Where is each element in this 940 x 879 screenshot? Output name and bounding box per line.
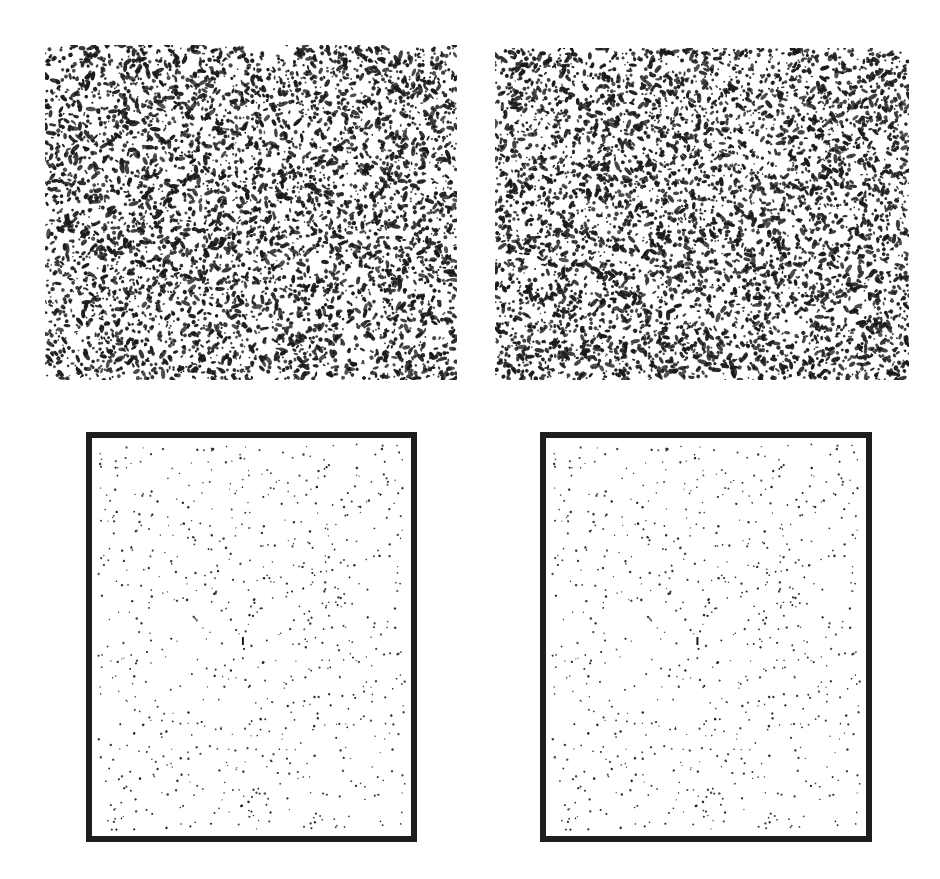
dot-field	[92, 438, 411, 836]
random-dot-stereogram-sparse-right	[540, 432, 872, 842]
random-dot-stereogram-sparse-left	[86, 432, 417, 842]
random-dot-stereogram-dense-left	[45, 45, 457, 380]
dot-field	[45, 45, 457, 380]
dot-field	[495, 48, 909, 380]
random-dot-stereogram-dense-right	[495, 48, 909, 380]
dot-field	[546, 438, 866, 836]
